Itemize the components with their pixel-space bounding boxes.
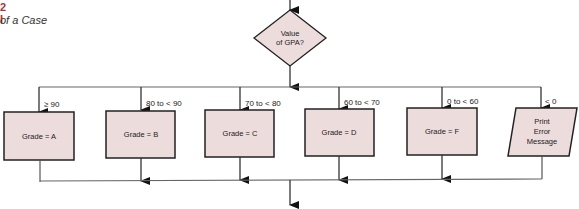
decision-diamond: Value of GPA?	[254, 10, 326, 66]
condition-label-error: < 0	[545, 97, 557, 106]
process-label-a: Grade = A	[22, 132, 56, 141]
process-box-grade-c: Grade = C	[205, 110, 274, 157]
process-box-grade-f: Grade = F	[407, 108, 477, 155]
process-box-grade-a: Grade = A	[4, 112, 74, 160]
condition-label-c: 70 to < 80	[245, 99, 281, 108]
process-label-d: Grade = D	[322, 128, 357, 137]
collector-line	[40, 179, 542, 181]
condition-label-f: 0 to < 60	[447, 97, 479, 106]
process-box-grade-b: Grade = B	[106, 111, 175, 158]
io-line-1: Print	[534, 117, 550, 126]
io-line-3: Message	[527, 137, 557, 146]
decision-line-1: Value	[281, 29, 300, 38]
decision-line-2: of GPA?	[276, 38, 304, 47]
process-label-f: Grade = F	[425, 127, 459, 136]
io-box-print-error: Print Error Message	[508, 108, 577, 156]
condition-label-a: ≥ 90	[44, 100, 60, 109]
io-line-2: Error	[534, 127, 551, 136]
flowchart: Value of GPA? ≥ 90 80 to < 90 70 to < 80…	[0, 0, 579, 209]
process-label-b: Grade = B	[124, 130, 158, 139]
condition-label-d: 60 to < 70	[344, 98, 380, 107]
condition-label-b: 80 to < 90	[146, 99, 182, 108]
process-box-grade-d: Grade = D	[305, 109, 374, 156]
process-label-c: Grade = C	[223, 129, 258, 138]
